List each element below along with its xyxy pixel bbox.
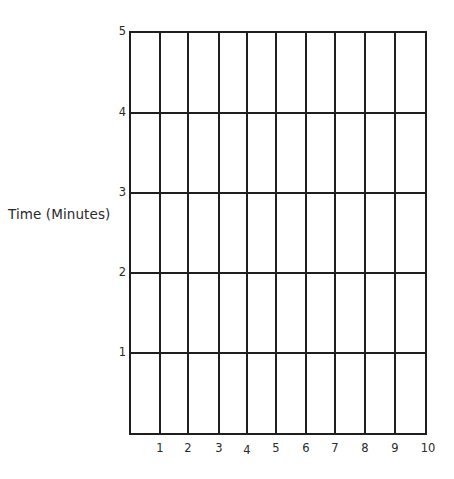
- grid: [0, 0, 454, 479]
- plot-frame: [130, 32, 426, 434]
